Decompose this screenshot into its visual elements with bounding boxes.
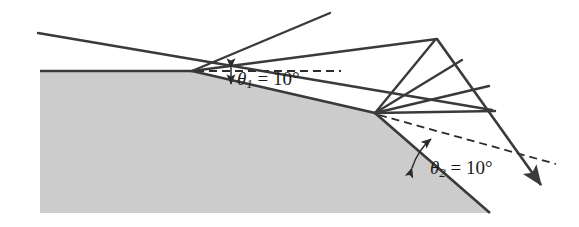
- theta1-label: θ1 = 10°: [237, 68, 300, 92]
- ray-v2-up-2: [375, 60, 462, 113]
- ground-body: [40, 71, 490, 213]
- theta2-label: θ2 = 10°: [430, 157, 493, 181]
- theta2-value: 10°: [466, 157, 493, 178]
- theta1-value: 10°: [273, 68, 300, 89]
- theta1-equals: =: [253, 68, 273, 89]
- diagram-canvas: [0, 0, 579, 227]
- theta2-equals: =: [446, 157, 466, 178]
- theta2-symbol: θ: [430, 157, 439, 178]
- theta1-symbol: θ: [237, 68, 246, 89]
- ray-v2-horizontal: [375, 111, 495, 113]
- ray-diagram-figure: θ1 = 10° θ2 = 10°: [0, 0, 579, 227]
